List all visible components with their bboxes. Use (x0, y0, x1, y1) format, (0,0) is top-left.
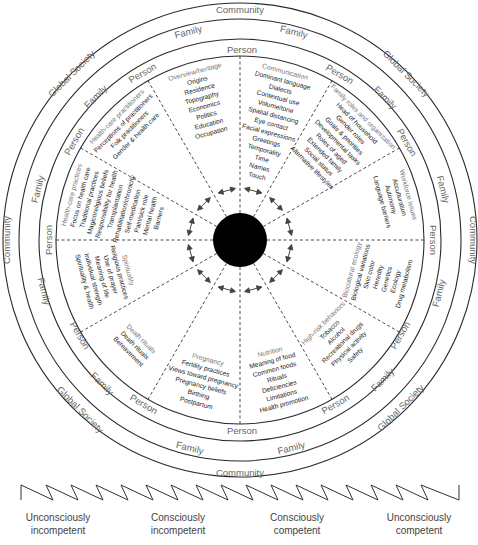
domain-communication: Communication Dominant language Dialects… (229, 61, 314, 187)
svg-text:Community: Community (216, 467, 264, 478)
domain-death-rituals: Death rituals Death rituals Bereavement (112, 322, 158, 368)
svg-text:Community: Community (216, 4, 264, 15)
stage-line2: incompetent (123, 524, 233, 537)
svg-text:Family: Family (89, 370, 117, 398)
stage-unconsciously-competent: Unconsciously competent (364, 511, 474, 537)
stage-unconsciously-incompetent: Unconsciously incompetent (3, 511, 113, 537)
stage-line1: Unconsciously (3, 511, 113, 524)
domain-spirituality: Spirituality Religious practices Use of … (73, 242, 139, 311)
svg-text:Person: Person (68, 319, 93, 351)
svg-text:Person: Person (428, 225, 439, 255)
svg-text:Person: Person (128, 392, 160, 417)
stage-line1: Consciously (242, 511, 352, 524)
svg-text:Community: Community (1, 216, 12, 264)
stage-consciously-incompetent: Consciously incompetent (123, 511, 233, 537)
svg-text:Family: Family (173, 23, 203, 41)
svg-text:Global Society: Global Society (375, 382, 426, 433)
center-person-core (213, 213, 267, 267)
svg-text:Family: Family (82, 83, 110, 111)
domain-high-risk-behaviors: High-risk behaviors Tobacco Alcohol Recr… (300, 300, 379, 379)
svg-text:Person: Person (388, 319, 413, 351)
svg-text:Community: Community (468, 216, 478, 264)
stage-consciously-competent: Consciously competent (242, 511, 352, 537)
domain-overview-heritage: Overview/heritage Origins Residence Topo… (167, 61, 238, 144)
svg-text:Person: Person (227, 425, 257, 436)
domain-health-care-practices: Health-care practices Focus on health ca… (59, 160, 171, 253)
domain-biocultural-ecology: Biocultural ecology Biological variation… (341, 240, 416, 313)
svg-text:Family: Family (430, 278, 448, 308)
domain-nutrition: Nutrition Meaning of food Common foods R… (245, 342, 310, 415)
purnell-model-diagram: Community Community Community Community … (0, 0, 478, 545)
stage-line1: Unconsciously (364, 511, 474, 524)
svg-text:Family: Family (36, 276, 54, 306)
svg-text:Family: Family (175, 439, 205, 457)
svg-text:Person: Person (227, 44, 257, 55)
svg-text:Global Society: Global Society (46, 48, 97, 99)
svg-text:Person: Person (43, 225, 54, 255)
svg-text:Family: Family (372, 84, 400, 112)
stage-line2: competent (242, 524, 352, 537)
svg-text:Family: Family (29, 174, 47, 204)
domain-workforce-issues: Workforce issues Acculturation Autonomy … (371, 168, 419, 229)
domain-pregnancy: Pregnancy Fertility practices Views towa… (161, 347, 245, 417)
stage-line2: competent (364, 524, 474, 537)
svg-text:Family: Family (279, 23, 309, 41)
svg-text:Family: Family (369, 366, 397, 394)
stage-line1: Consciously (123, 511, 233, 524)
competence-sawtooth-line (21, 485, 459, 500)
svg-text:Person: Person (319, 392, 351, 417)
svg-text:Family: Family (276, 439, 306, 457)
stage-line2: incompetent (3, 524, 113, 537)
